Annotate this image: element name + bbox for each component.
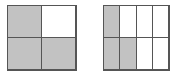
right-figure-cell-row2-col4 — [152, 37, 170, 71]
right-figure-cell-row1-col1 — [103, 5, 121, 39]
right-figure-grid — [103, 5, 169, 70]
right-figure-cell-row2-col2 — [119, 37, 137, 71]
left-figure-cell-row2-col1 — [7, 37, 43, 71]
right-figure-cell-row2-col1 — [103, 37, 121, 71]
left-figure-cell-row1-col2 — [41, 5, 77, 39]
left-figure-cell-row2-col2 — [41, 37, 77, 71]
right-figure-cell-row2-col3 — [136, 37, 154, 71]
right-figure-cell-row1-col3 — [136, 5, 154, 39]
figure-canvas — [0, 0, 179, 78]
left-figure-cell-row1-col1 — [7, 5, 43, 39]
right-figure-cell-row1-col2 — [119, 5, 137, 39]
left-figure-grid — [7, 5, 76, 70]
right-figure-cell-row1-col4 — [152, 5, 170, 39]
